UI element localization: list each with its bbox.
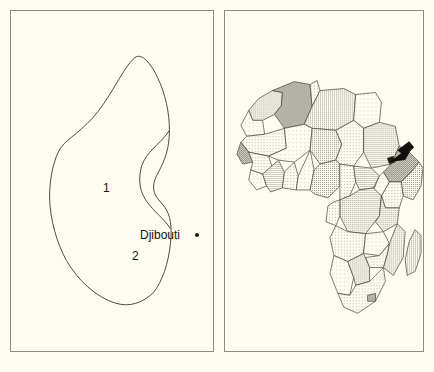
capital-city-dot-marker: [195, 233, 199, 237]
djibouti-outline-panel: 1 2 Djibouti: [10, 10, 214, 352]
djibouti-country-outline: [50, 56, 172, 304]
country-gabon-congo: [326, 200, 340, 226]
africa-locator-panel: [224, 10, 424, 352]
country-madagascar: [405, 230, 421, 276]
djibouti-map-svg: [11, 11, 213, 351]
country-nigeria: [310, 160, 340, 198]
region-label-1: 1: [103, 181, 110, 195]
country-ghana: [282, 162, 298, 190]
region-label-2: 2: [132, 249, 139, 263]
capital-city-label: Djibouti: [140, 228, 180, 242]
figure-root: 1 2 Djibouti: [0, 0, 434, 372]
africa-map-svg: [225, 11, 423, 351]
